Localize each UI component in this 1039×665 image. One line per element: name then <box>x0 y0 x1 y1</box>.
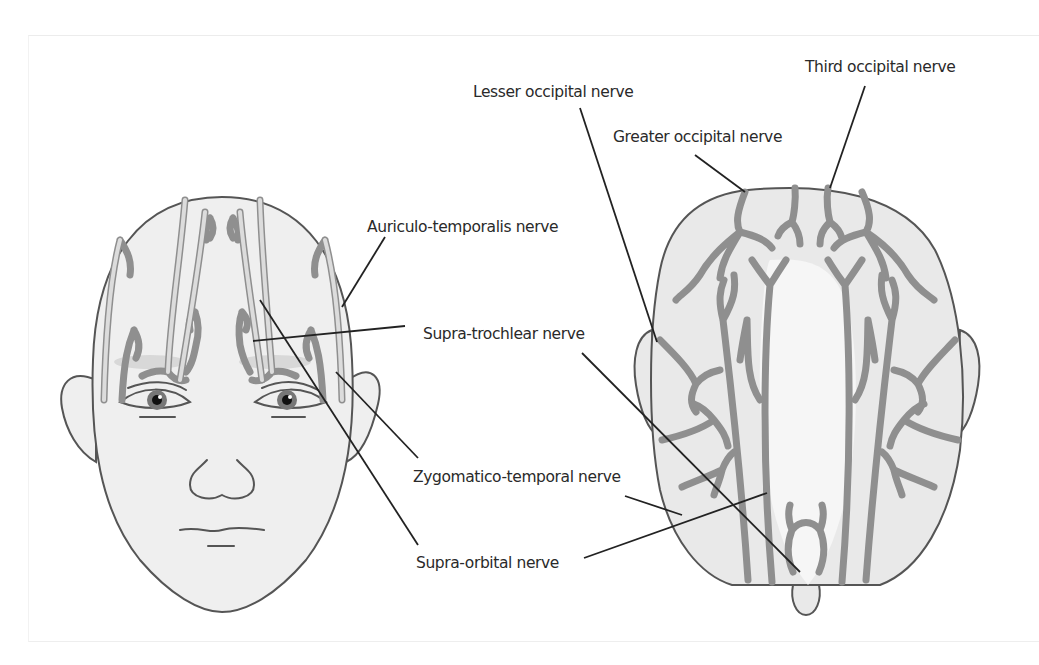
label-lesser-occipital-nerve: Lesser occipital nerve <box>473 83 633 101</box>
left-ear <box>61 376 96 462</box>
front-view-head <box>61 197 379 612</box>
top-view-head <box>635 188 980 615</box>
label-auriculo-temporalis-nerve: Auriculo-temporalis nerve <box>367 218 558 236</box>
label-zygomatico-temporal-nerve: Zygomatico-temporal nerve <box>413 468 621 486</box>
leader-third-occipital <box>830 86 865 188</box>
label-third-occipital-nerve: Third occipital nerve <box>804 58 955 76</box>
label-supra-trochlear-nerve: Supra-trochlear nerve <box>423 325 585 343</box>
leader-greater-occipital <box>695 155 745 192</box>
label-supra-orbital-nerve: Supra-orbital nerve <box>416 554 559 572</box>
nose-tip <box>792 585 820 615</box>
label-greater-occipital-nerve: Greater occipital nerve <box>613 128 782 146</box>
leader-auriculo-temporalis <box>342 237 385 307</box>
